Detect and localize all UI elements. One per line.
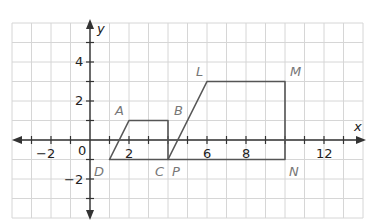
- y-tick-label-2: 2: [75, 93, 83, 108]
- point-label-d: D: [94, 164, 104, 179]
- point-label-b: B: [174, 103, 183, 118]
- x-tick-label-neg2: −2: [36, 146, 55, 161]
- point-label-l: L: [196, 64, 203, 79]
- x-axis-right-arrow-icon: [356, 136, 366, 144]
- point-label-a: A: [114, 103, 124, 118]
- x-tick-label-12: 12: [316, 146, 333, 161]
- y-axis-up-arrow-icon: [86, 19, 94, 29]
- x-axis-left-arrow-icon: [12, 136, 22, 144]
- y-tick-label-4: 4: [75, 54, 83, 69]
- y-tick-label-neg2: −2: [64, 172, 83, 187]
- point-label-c: C: [155, 164, 165, 179]
- coordinate-plane: x y 0 −2 2 6 8 12 4 2 −2 A B C D L M N P: [0, 0, 371, 223]
- origin-label: 0: [78, 143, 86, 158]
- point-label-n: N: [289, 164, 299, 179]
- y-axis-label: y: [96, 21, 105, 36]
- x-axis-label: x: [353, 119, 362, 134]
- point-label-p: P: [172, 164, 180, 179]
- point-label-m: M: [290, 64, 301, 79]
